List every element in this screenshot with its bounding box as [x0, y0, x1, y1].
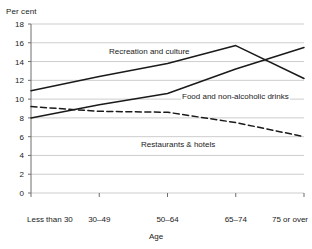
chart-container: Per cent 024681012141618 Less than 3030–…: [0, 0, 312, 249]
x-tick-label: 75 or over: [264, 215, 308, 224]
y-tick-label: 8: [4, 113, 24, 122]
series-label-food: Food and non-alcoholic drinks: [181, 92, 290, 101]
series-line: [31, 107, 304, 137]
y-tick-label: 2: [4, 170, 24, 179]
x-tick-label: 65–74: [211, 215, 261, 224]
x-axis-title: Age: [0, 232, 312, 241]
y-tick-label: 6: [4, 132, 24, 141]
y-tick-label: 16: [4, 38, 24, 47]
y-tick-label: 0: [4, 189, 24, 198]
y-tick-label: 14: [4, 57, 24, 66]
y-tick-label: 4: [4, 151, 24, 160]
x-tick-label: 50–64: [143, 215, 193, 224]
x-tick-marks: [31, 193, 304, 197]
y-tick-label: 12: [4, 76, 24, 85]
y-axis-unit-label: Per cent: [6, 7, 37, 16]
series-label-restaurants: Restaurants & hotels: [140, 140, 216, 149]
x-tick-label: Less than 30: [27, 215, 73, 224]
x-tick-label: 30–49: [74, 215, 124, 224]
y-tick-label: 10: [4, 95, 24, 104]
y-tick-label: 18: [4, 20, 24, 29]
series-label-recreation: Recreation and culture: [108, 47, 191, 56]
